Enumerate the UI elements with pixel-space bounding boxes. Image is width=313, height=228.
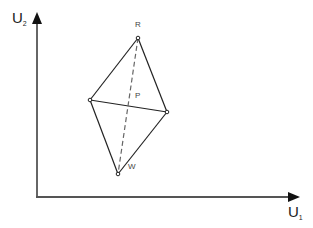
y-axis-arrow-icon	[32, 12, 42, 24]
edge-r-right	[138, 38, 167, 112]
vertex-w	[116, 172, 120, 176]
rhombus-shape	[90, 38, 167, 174]
diagram-canvas	[0, 0, 313, 228]
y-axis-label-subscript: 2	[23, 20, 27, 27]
diagonal-r-w-dashed	[118, 38, 138, 174]
point-label-r: R	[135, 20, 141, 29]
vertex-r	[136, 36, 140, 40]
y-axis-label-text: U	[12, 9, 23, 26]
vertex-left	[88, 98, 92, 102]
y-axis-label: U2	[12, 9, 27, 27]
vertex-right	[165, 110, 169, 114]
point-label-p: P	[135, 91, 140, 100]
x-axis-label: U1	[288, 203, 303, 221]
edge-left-w	[90, 100, 118, 174]
x-axis-arrow-icon	[288, 192, 300, 202]
x-axis-label-subscript: 1	[299, 214, 303, 221]
x-axis-label-text: U	[288, 203, 299, 220]
point-label-w: W	[128, 162, 136, 171]
edge-r-left	[90, 38, 138, 100]
